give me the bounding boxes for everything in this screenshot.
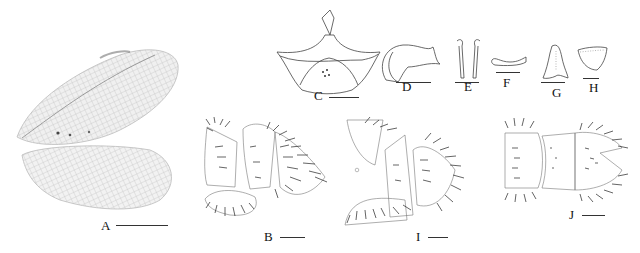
scale-bar-h — [583, 78, 599, 79]
panel-label-a: A — [101, 219, 110, 232]
scale-bar-b — [280, 237, 305, 238]
gonarcus-lateral-drawing — [378, 42, 448, 92]
sclerite-f-drawing — [490, 54, 530, 69]
scale-bar-i — [428, 237, 448, 238]
scale-bar-d — [396, 82, 431, 83]
panel-label-f: F — [503, 76, 510, 89]
male-terminalia-lateral-drawing — [195, 117, 345, 222]
scale-bar-a — [116, 225, 168, 226]
terminalia-ventral-drawing — [500, 118, 635, 203]
panel-label-j: J — [569, 208, 574, 221]
scale-bar-e — [455, 82, 479, 83]
scale-bar-f — [496, 72, 520, 73]
sclerite-g-drawing — [540, 43, 572, 83]
paired-sclerites-drawing — [452, 38, 487, 83]
scale-bar-j — [582, 215, 605, 216]
scale-bar-c — [329, 97, 359, 98]
gonarcus-dorsal-drawing — [272, 10, 387, 105]
panel-label-i: I — [416, 230, 420, 243]
panel-label-h: H — [589, 81, 598, 94]
panel-label-b: B — [264, 230, 273, 243]
female-terminalia-lateral-drawing — [345, 115, 495, 230]
sclerite-h-drawing — [575, 45, 610, 77]
panel-label-g: G — [552, 86, 561, 99]
panel-label-c: C — [314, 89, 323, 102]
scale-bar-g — [541, 82, 565, 83]
panel-c-gonarcus: B — [272, 10, 387, 105]
